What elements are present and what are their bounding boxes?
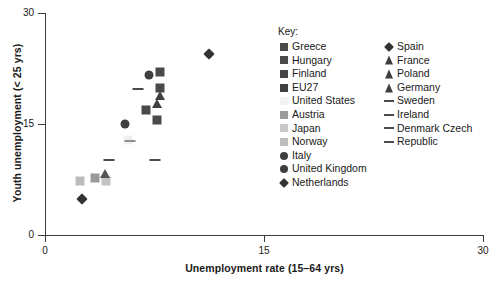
- triangle-marker-icon: [382, 81, 395, 94]
- diamond-marker-icon: [382, 40, 395, 53]
- data-point-greece: [156, 68, 165, 77]
- square-marker-icon: [277, 122, 290, 135]
- legend-item-france: France: [382, 54, 492, 68]
- legend-item-japan: Japan: [277, 122, 382, 136]
- legend-item-hungary: Hungary: [277, 54, 382, 68]
- legend-item-ireland: Ireland: [382, 108, 492, 122]
- legend-item-label: EU27: [292, 81, 318, 95]
- square-marker-icon: [277, 81, 290, 94]
- square-marker-icon: [277, 135, 290, 148]
- dash-marker-icon: [382, 108, 395, 121]
- triangle-marker-icon: [382, 54, 395, 67]
- legend-item-label: Poland: [397, 67, 430, 81]
- square-marker-icon: [277, 108, 290, 121]
- data-point-finland: [141, 105, 150, 114]
- legend-item-label: France: [397, 54, 430, 68]
- legend: Key: GreeceHungaryFinlandEU27United Stat…: [277, 26, 489, 40]
- legend-item-label: United States: [292, 94, 355, 108]
- data-point-france: [100, 169, 110, 178]
- legend-item-label: Norway: [292, 135, 328, 149]
- dash-marker-icon: [382, 122, 395, 135]
- legend-column-left: GreeceHungaryFinlandEU27United StatesAus…: [277, 40, 382, 190]
- data-point-germany: [152, 99, 162, 108]
- scatter-chart: 01530 01530 Unemployment rate (15–64 yrs…: [0, 0, 495, 283]
- data-point-denmark: [149, 159, 160, 161]
- data-point-ireland: [104, 159, 115, 161]
- diamond-marker-icon: [277, 176, 290, 189]
- dash-marker-icon: [382, 135, 395, 148]
- legend-item-label: Finland: [292, 67, 326, 81]
- legend-item-united-states: United States: [277, 94, 382, 108]
- dash-marker-icon: [382, 95, 395, 108]
- legend-item-label: United Kingdom: [292, 162, 367, 176]
- legend-item-denmark-czech: Denmark Czech: [382, 122, 492, 136]
- legend-item-norway: Norway: [277, 135, 382, 149]
- data-point-italy: [144, 71, 153, 80]
- legend-item-label: Germany: [397, 81, 440, 95]
- data-point-norway: [76, 176, 85, 185]
- data-point-netherlands: [76, 193, 87, 204]
- legend-item-poland: Poland: [382, 67, 492, 81]
- legend-title: Key:: [277, 26, 489, 37]
- legend-column-right: SpainFrancePolandGermanySwedenIrelandDen…: [382, 40, 492, 149]
- legend-item-republic: Republic: [382, 135, 492, 149]
- legend-item-greece: Greece: [277, 40, 382, 54]
- data-point-sweden: [133, 88, 144, 90]
- legend-item-austria: Austria: [277, 108, 382, 122]
- legend-item-finland: Finland: [277, 67, 382, 81]
- circle-marker-icon: [277, 163, 290, 176]
- legend-item-label: Ireland: [397, 108, 429, 122]
- square-marker-icon: [277, 67, 290, 80]
- data-point-united-states-dash: [124, 140, 135, 142]
- legend-item-label: Spain: [397, 40, 424, 54]
- data-point-austria: [90, 174, 99, 183]
- legend-item-label: Hungary: [292, 54, 332, 68]
- legend-item-label: Republic: [397, 135, 438, 149]
- legend-item-germany: Germany: [382, 81, 492, 95]
- legend-item-label: Japan: [292, 122, 321, 136]
- legend-item-label: Italy: [292, 149, 311, 163]
- data-point-eu27: [153, 116, 162, 125]
- legend-item-italy: Italy: [277, 149, 382, 163]
- data-point-united-kingdom: [121, 120, 130, 129]
- legend-item-united-kingdom: United Kingdom: [277, 162, 382, 176]
- legend-item-label: Greece: [292, 40, 326, 54]
- legend-item-label: Netherlands: [292, 176, 349, 190]
- legend-item-eu27: EU27: [277, 81, 382, 95]
- legend-item-label: Sweden: [397, 94, 435, 108]
- square-marker-icon: [277, 54, 290, 67]
- square-marker-icon: [277, 95, 290, 108]
- triangle-marker-icon: [382, 67, 395, 80]
- legend-item-label: Denmark Czech: [397, 122, 472, 136]
- legend-item-sweden: Sweden: [382, 94, 492, 108]
- data-point-spain: [203, 49, 214, 60]
- legend-item-label: Austria: [292, 108, 325, 122]
- legend-item-spain: Spain: [382, 40, 492, 54]
- legend-item-netherlands: Netherlands: [277, 176, 382, 190]
- square-marker-icon: [277, 40, 290, 53]
- circle-marker-icon: [277, 149, 290, 162]
